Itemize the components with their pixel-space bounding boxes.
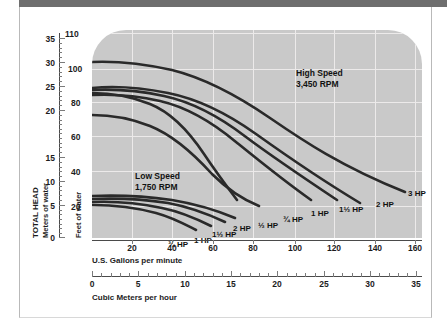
x-tick-cmh-5	[138, 271, 139, 277]
y-minor-tick	[59, 105, 62, 106]
y-label-feet-40: 40	[71, 167, 80, 177]
x-minor-tick-cmh	[111, 273, 112, 277]
x-minor-tick-cmh	[361, 273, 362, 277]
x-minor-tick-cmh	[203, 273, 204, 277]
x-minor-tick-cmh	[120, 273, 121, 277]
y-tick-20	[59, 110, 65, 111]
x-minor-tick-cmh	[379, 273, 380, 277]
x-minor-tick-cmh	[129, 273, 130, 277]
y-minor-tick	[59, 167, 62, 168]
y-minor-tick	[59, 143, 62, 144]
x-minor-tick-cmh	[407, 273, 408, 277]
y-minor-tick	[59, 67, 62, 68]
y-tick-30	[59, 62, 65, 63]
x-axis-title-gpm: U.S. Gallons per minute	[92, 256, 182, 265]
annotation-low-speed-line2: 1,750 RPM	[135, 182, 180, 193]
y-minor-tick	[59, 228, 62, 229]
curve-group	[92, 30, 422, 238]
curve-1.5hp-high	[92, 90, 337, 200]
y-tick-5	[59, 205, 65, 206]
y-minor-tick	[59, 96, 62, 97]
x-minor-tick-cmh	[259, 273, 260, 277]
x-minor-tick-cmh	[287, 273, 288, 277]
x-label-gpm-160: 160	[408, 243, 422, 253]
x-axis-cmh-line	[92, 276, 422, 277]
y-minor-tick	[59, 76, 62, 77]
x-label-gpm-120: 120	[327, 243, 341, 253]
x-minor-tick-cmh	[222, 273, 223, 277]
y-tick-10	[59, 181, 65, 182]
x-tick-cmh-30	[370, 271, 371, 277]
annotation-low-speed-line1: Low Speed	[135, 171, 180, 182]
x-axis-gpm-line	[92, 240, 422, 241]
y-label-feet-60: 60	[71, 132, 80, 142]
y-minor-tick	[59, 138, 62, 139]
x-tick-cmh-35	[416, 271, 417, 277]
y-label-meters-30: 30	[33, 58, 55, 68]
pump-performance-chart: High Speed 3,450 RPM Low Speed 1,750 RPM…	[0, 0, 447, 323]
y-minor-tick	[59, 176, 62, 177]
curve-label-3hp-high: 3 HP	[408, 189, 426, 198]
x-tick-cmh-25	[324, 271, 325, 277]
x-label-gpm-100: 100	[288, 243, 302, 253]
x-label-gpm-80: 80	[248, 243, 257, 253]
x-label-cmh-35: 35	[411, 279, 420, 289]
x-label-cmh-15: 15	[226, 279, 235, 289]
x-label-cmh-20: 20	[272, 279, 281, 289]
x-tick-cmh-15	[231, 271, 232, 277]
x-minor-tick-cmh	[268, 273, 269, 277]
y-tick-0	[59, 237, 65, 238]
x-label-cmh-30: 30	[365, 279, 374, 289]
annotation-high-speed: High Speed 3,450 RPM	[296, 68, 343, 89]
x-tick-cmh-10	[185, 271, 186, 277]
x-label-cmh-10: 10	[180, 279, 189, 289]
y-minor-tick	[59, 210, 62, 211]
x-label-gpm-60: 60	[208, 243, 217, 253]
y-minor-tick	[59, 120, 62, 121]
y-minor-tick	[59, 115, 62, 116]
y-minor-tick	[59, 124, 62, 125]
x-minor-tick-cmh	[176, 273, 177, 277]
y-axis-title-feet-of-water: Feet of water	[74, 192, 83, 238]
y-minor-tick	[59, 152, 62, 153]
x-minor-tick-cmh	[213, 273, 214, 277]
curve-label-0.75hp-high: ¾ HP	[283, 215, 303, 224]
y-minor-tick	[59, 219, 62, 220]
x-minor-tick-cmh	[352, 273, 353, 277]
y-minor-tick	[59, 72, 62, 73]
x-minor-tick-cmh	[240, 273, 241, 277]
y-minor-tick	[59, 214, 62, 215]
y-label-feet-110: 110	[65, 29, 79, 39]
annotation-low-speed: Low Speed 1,750 RPM	[135, 171, 180, 192]
curve-label-1hp-high: 1 HP	[311, 209, 329, 218]
y-minor-tick	[59, 233, 62, 234]
curve-label-1.5hp-high: 1½ HP	[339, 205, 363, 214]
y-tick-15	[59, 157, 65, 158]
x-minor-tick-cmh	[157, 273, 158, 277]
annotation-high-speed-line2: 3,450 RPM	[296, 79, 343, 90]
y-minor-tick	[59, 133, 62, 134]
x-label-cmh-25: 25	[319, 279, 328, 289]
y-minor-tick	[59, 43, 62, 44]
x-label-gpm-40: 40	[167, 243, 176, 253]
curve-label-1.5hp-low: 1½ HP	[212, 230, 236, 239]
y-minor-tick	[59, 190, 62, 191]
x-label-gpm-20: 20	[127, 243, 136, 253]
y-minor-tick	[59, 57, 62, 58]
x-axis-title-cmh: Cubic Meters per hour	[92, 293, 177, 302]
x-minor-tick-cmh	[389, 273, 390, 277]
y-minor-tick	[59, 200, 62, 201]
plot-area: High Speed 3,450 RPM Low Speed 1,750 RPM	[92, 30, 422, 238]
x-minor-tick-cmh	[305, 273, 306, 277]
curve-label-0.5hp-high: ½ HP	[258, 221, 278, 230]
y-axis-title-meters-of-water: Meters of water	[41, 183, 50, 238]
y-minor-tick	[59, 224, 62, 225]
curve-label-2hp-high: 2 HP	[376, 200, 394, 209]
y-minor-tick	[59, 91, 62, 92]
y-minor-tick	[59, 195, 62, 196]
y-label-feet-80: 80	[71, 98, 80, 108]
x-minor-tick-cmh	[101, 273, 102, 277]
x-minor-tick-cmh	[398, 273, 399, 277]
y-minor-tick	[59, 48, 62, 49]
x-label-gpm-140: 140	[368, 243, 382, 253]
